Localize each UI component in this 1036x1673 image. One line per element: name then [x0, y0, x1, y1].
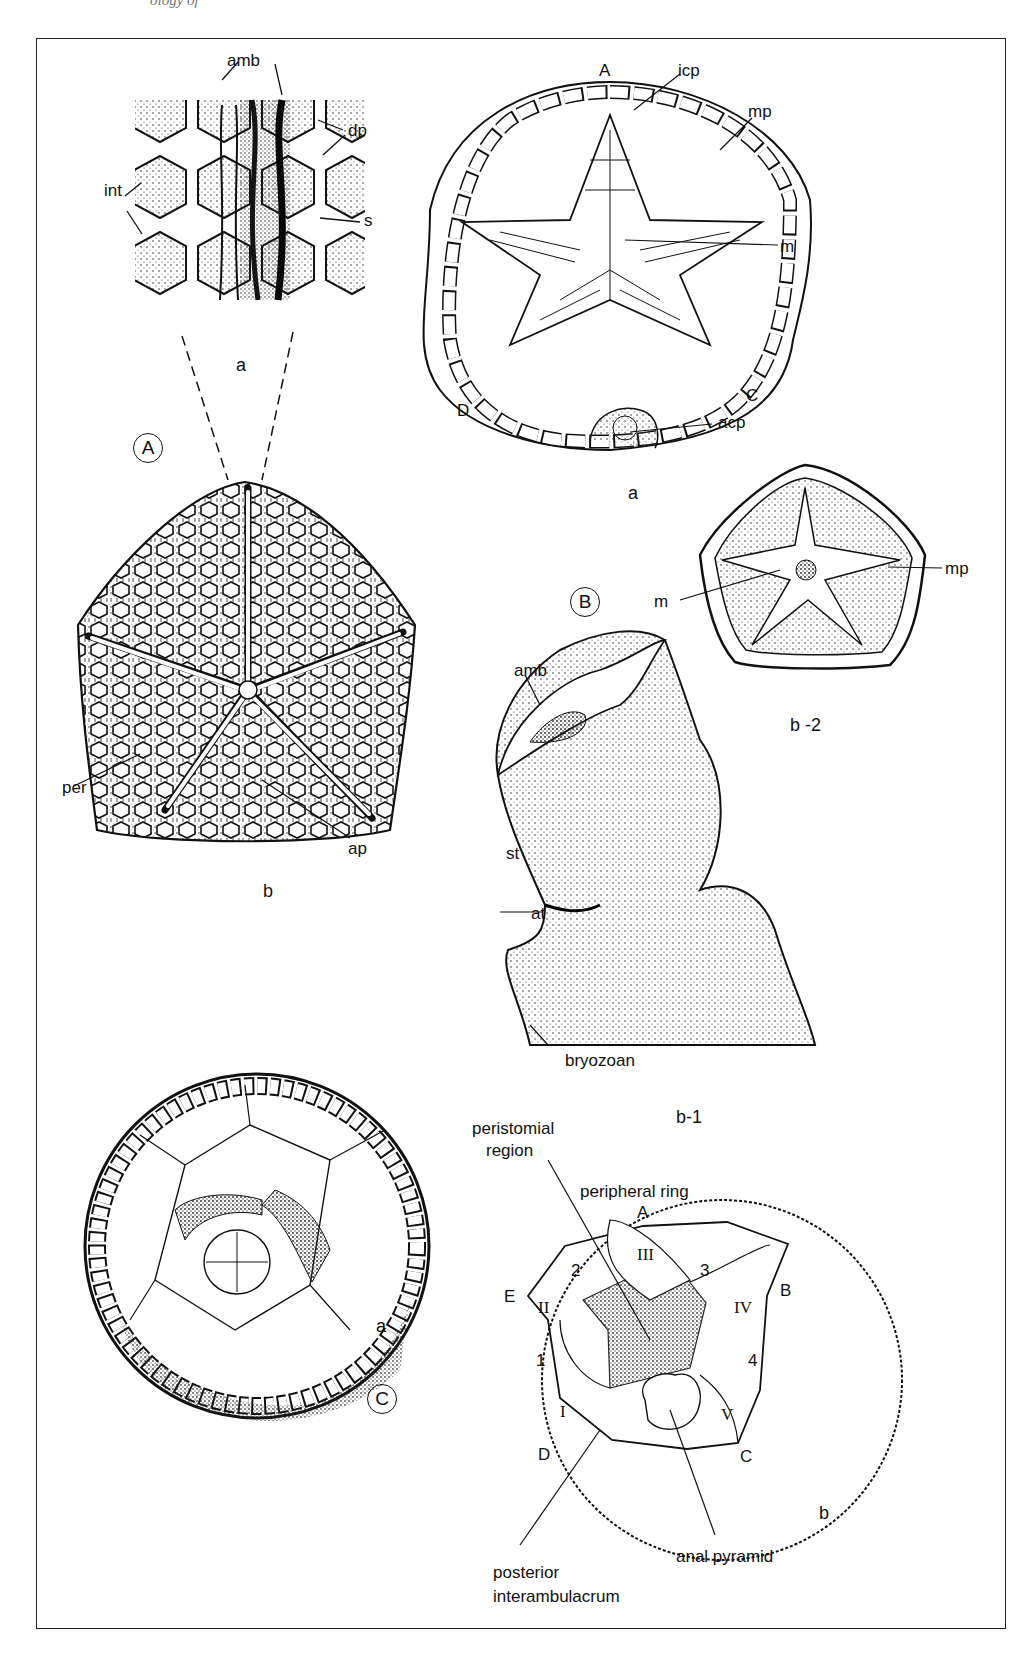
label-C-b-E: E — [504, 1288, 515, 1305]
label-int: int — [104, 182, 122, 199]
panel-label-C-a: a — [376, 1317, 386, 1335]
label-s: s — [364, 212, 373, 229]
label-B-b2-mp: mp — [945, 560, 969, 577]
plate-illustrations — [0, 0, 1036, 1673]
figure-C-a-oral-view — [85, 1074, 429, 1421]
figure-A-b-theca — [74, 482, 415, 841]
panel-label-A-a: a — [236, 356, 246, 374]
label-B-a-C: C — [746, 387, 758, 404]
label-C-b-1: 1 — [536, 1352, 545, 1369]
panel-label-C-b: b — [819, 1504, 829, 1522]
panel-label-B-b1: b-1 — [676, 1108, 702, 1126]
label-C-b-C: C — [740, 1448, 752, 1465]
label-C-b-III: III — [637, 1246, 654, 1263]
label-B-b2-m: m — [654, 593, 668, 610]
label-C-b-3: 3 — [700, 1262, 709, 1279]
figure-C-b-schematic — [520, 1160, 902, 1560]
panel-label-A-b: b — [263, 882, 273, 900]
panel-label-B-a: a — [628, 484, 638, 502]
label-B-a-A: A — [599, 62, 610, 79]
figure-B-b1-attached-specimen — [497, 631, 815, 1045]
section-marker-A: A — [133, 433, 163, 463]
panel-label-B-b2: b -2 — [790, 716, 821, 734]
label-B-b1-amb: amb — [514, 662, 547, 679]
section-marker-A-text: A — [142, 437, 155, 459]
label-posterior: posterior — [493, 1564, 559, 1581]
label-icp: icp — [678, 62, 700, 79]
section-marker-C: C — [367, 1384, 397, 1414]
label-C-b-D: D — [538, 1446, 550, 1463]
label-peripheral-ring: peripheral ring — [580, 1183, 689, 1200]
section-marker-C-text: C — [375, 1388, 389, 1410]
label-B-a-mp: mp — [748, 103, 772, 120]
label-C-b-I: I — [560, 1403, 566, 1420]
label-acp: acp — [718, 414, 745, 431]
label-peristomial: peristomial — [472, 1120, 554, 1137]
label-ap: ap — [348, 840, 367, 857]
label-C-b-IV: IV — [734, 1299, 752, 1316]
label-at: at — [531, 905, 545, 922]
label-C-b-2: 2 — [571, 1262, 580, 1279]
label-st: st — [506, 845, 519, 862]
label-C-b-A: A — [637, 1204, 648, 1221]
label-C-b-B: B — [780, 1282, 791, 1299]
label-per: per — [62, 779, 87, 796]
label-anal-pyramid: anal pyramid — [676, 1548, 773, 1565]
section-marker-B: B — [570, 587, 600, 617]
label-C-b-4: 4 — [748, 1352, 757, 1369]
figure-B-b2-oral-view — [680, 465, 942, 668]
label-dp: dp — [348, 122, 367, 139]
label-region: region — [486, 1142, 533, 1159]
label-bryozoan: bryozoan — [565, 1052, 635, 1069]
label-B-a-m: m — [780, 238, 794, 255]
label-B-a-D: D — [457, 402, 469, 419]
label-C-b-V: V — [721, 1406, 733, 1423]
label-C-b-II: II — [538, 1299, 549, 1316]
section-marker-B-text: B — [579, 591, 592, 613]
label-amb: amb — [227, 52, 260, 69]
figure-A-a-plate-detail — [125, 62, 365, 480]
label-interambulacrum: interambulacrum — [493, 1588, 620, 1605]
